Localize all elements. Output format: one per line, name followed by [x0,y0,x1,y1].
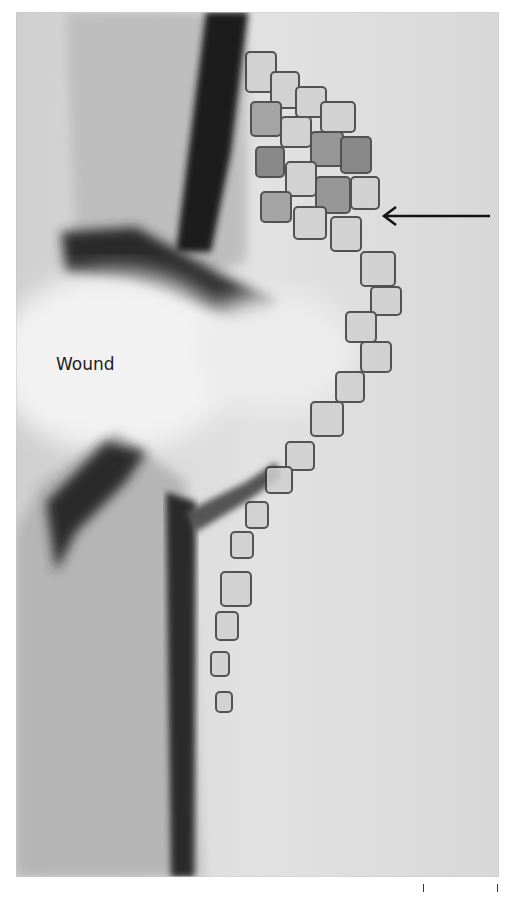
left-arrow-icon [380,204,492,228]
scale-bar-tick-left [423,884,424,892]
micrograph-image [16,12,499,877]
tissue-drawing [16,12,499,877]
scale-bar-tick-right [497,884,498,892]
wound-label: Wound [56,354,115,374]
